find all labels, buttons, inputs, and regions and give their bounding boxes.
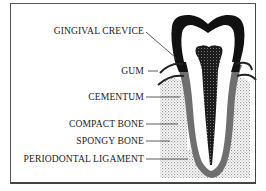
label-cementum: CEMENTUM	[88, 92, 144, 102]
spongy-bone-left	[160, 77, 188, 178]
label-periodontal-ligament: PERIODONTAL LIGAMENT	[23, 154, 144, 164]
label-spongy-bone: SPONGY BONE	[76, 136, 144, 146]
label-compact-bone: COMPACT BONE	[69, 119, 144, 129]
label-gingival-crevice: GINGIVAL CREVICE	[54, 26, 144, 36]
label-gum: GUM	[121, 66, 144, 76]
